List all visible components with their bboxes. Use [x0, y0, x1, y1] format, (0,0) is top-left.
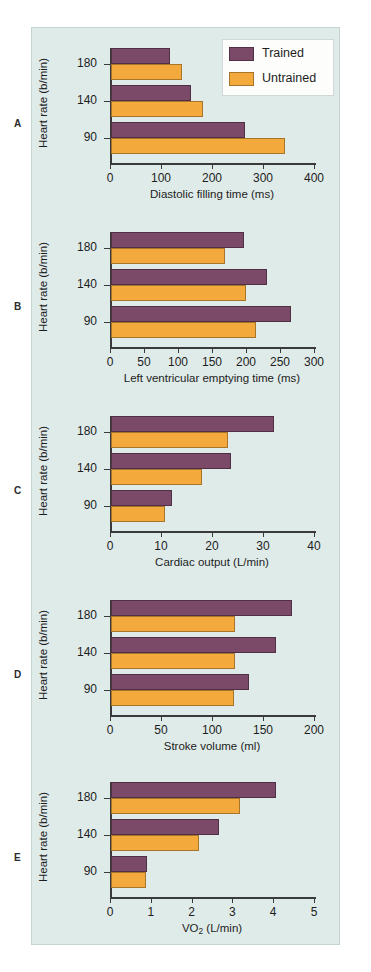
- x-tick-label: 300: [304, 355, 324, 369]
- x-axis-label: VO2 (L/min): [182, 922, 242, 936]
- bar-untrained-180: [111, 64, 182, 80]
- x-tick-label: 1: [147, 905, 154, 919]
- y-tick-label: 180: [53, 608, 97, 622]
- panel-letter-a: A: [14, 118, 22, 129]
- chart-panel-e: Heart rate (b/min)18014090012345VO2 (L/m…: [31, 772, 340, 956]
- x-tick-mark: [212, 348, 213, 353]
- x-tick-mark: [110, 348, 111, 353]
- x-axis-line: [110, 531, 316, 533]
- bar-untrained-90: [111, 322, 256, 338]
- x-axis-label: Left ventricular emptying time (ms): [124, 372, 300, 384]
- x-tick-label: 4: [270, 905, 277, 919]
- y-tick-label: 140: [53, 277, 97, 291]
- x-tick-label: 30: [256, 539, 269, 553]
- bar-untrained-140: [111, 653, 235, 669]
- panel-letter-e: E: [14, 852, 21, 863]
- y-tick-label: 90: [53, 864, 97, 878]
- x-tick-label: 10: [154, 539, 167, 553]
- y-tick-mark: [104, 506, 110, 507]
- bar-untrained-140: [111, 469, 202, 485]
- y-tick-label: 180: [53, 424, 97, 438]
- x-tick-label: 300: [253, 171, 273, 185]
- y-tick-label: 180: [53, 790, 97, 804]
- y-axis-label: Heart rate (b/min): [37, 409, 51, 533]
- y-tick-label: 180: [53, 240, 97, 254]
- y-tick-mark: [104, 798, 110, 799]
- bar-untrained-140: [111, 835, 199, 851]
- y-tick-mark: [104, 872, 110, 873]
- y-tick-mark: [104, 653, 110, 654]
- y-axis-label: Heart rate (b/min): [37, 775, 51, 899]
- x-tick-label: 250: [270, 355, 290, 369]
- bar-untrained-180: [111, 798, 240, 814]
- bar-trained-180: [111, 232, 244, 248]
- bar-trained-90: [111, 674, 249, 690]
- bar-trained-180: [111, 782, 276, 798]
- bar-untrained-180: [111, 616, 235, 632]
- x-tick-mark: [212, 716, 213, 721]
- y-tick-label: 90: [53, 682, 97, 696]
- bar-trained-140: [111, 819, 219, 835]
- x-tick-mark: [263, 164, 264, 169]
- x-tick-mark: [263, 716, 264, 721]
- bar-trained-180: [111, 416, 274, 432]
- x-tick-label: 400: [304, 171, 324, 185]
- x-tick-mark: [192, 898, 193, 903]
- y-tick-label: 140: [53, 827, 97, 841]
- x-tick-mark: [263, 532, 264, 537]
- chart-panel-d: Heart rate (b/min)18014090050100150200St…: [31, 590, 340, 774]
- x-tick-label: 5: [311, 905, 318, 919]
- bar-trained-140: [111, 269, 267, 285]
- y-tick-mark: [104, 616, 110, 617]
- x-axis-label: Stroke volume (ml): [164, 740, 261, 752]
- x-axis-line: [110, 163, 316, 165]
- x-tick-label: 40: [307, 539, 320, 553]
- x-tick-label: 100: [151, 171, 171, 185]
- x-tick-mark: [314, 532, 315, 537]
- x-tick-mark: [110, 716, 111, 721]
- x-tick-label: 150: [202, 355, 222, 369]
- x-axis-line: [110, 347, 316, 349]
- y-tick-mark: [104, 101, 110, 102]
- x-tick-mark: [314, 348, 315, 353]
- bar-trained-90: [111, 306, 291, 322]
- x-tick-label: 50: [154, 723, 167, 737]
- y-tick-label: 140: [53, 645, 97, 659]
- y-tick-mark: [104, 469, 110, 470]
- bar-trained-90: [111, 856, 147, 872]
- legend-swatch-untrained-icon: [229, 72, 254, 86]
- x-tick-mark: [314, 716, 315, 721]
- x-tick-label: 2: [188, 905, 195, 919]
- chart-panel-c: Heart rate (b/min)18014090010203040Cardi…: [31, 406, 340, 590]
- y-axis-label: Heart rate (b/min): [37, 225, 51, 349]
- x-tick-label: 0: [107, 723, 114, 737]
- y-tick-mark: [104, 138, 110, 139]
- x-tick-mark: [110, 898, 111, 903]
- x-tick-mark: [110, 164, 111, 169]
- x-tick-mark: [212, 164, 213, 169]
- x-tick-label: 200: [202, 171, 222, 185]
- chart-panel-b: Heart rate (b/min)1801409005010015020025…: [31, 222, 340, 406]
- x-axis-line: [110, 897, 316, 899]
- x-tick-label: 150: [253, 723, 273, 737]
- bar-trained-180: [111, 600, 292, 616]
- x-tick-mark: [246, 348, 247, 353]
- x-tick-label: 3: [229, 905, 236, 919]
- x-tick-mark: [212, 532, 213, 537]
- x-axis-label: Diastolic filling time (ms): [150, 188, 274, 200]
- x-tick-mark: [110, 532, 111, 537]
- x-tick-mark: [178, 348, 179, 353]
- x-tick-label: 0: [107, 171, 114, 185]
- y-tick-mark: [104, 432, 110, 433]
- bar-trained-180: [111, 48, 170, 64]
- x-tick-label: 100: [202, 723, 222, 737]
- bar-untrained-140: [111, 101, 203, 117]
- x-tick-mark: [314, 164, 315, 169]
- x-tick-label: 0: [107, 355, 114, 369]
- bar-untrained-90: [111, 872, 146, 888]
- bar-untrained-90: [111, 138, 285, 154]
- bar-trained-90: [111, 122, 245, 138]
- x-tick-label: 0: [107, 539, 114, 553]
- y-tick-label: 140: [53, 461, 97, 475]
- bar-untrained-180: [111, 248, 225, 264]
